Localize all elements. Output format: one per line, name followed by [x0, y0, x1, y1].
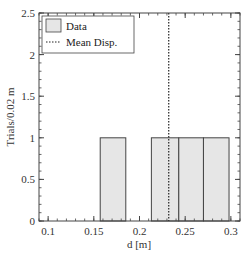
histogram-bars: [100, 138, 229, 221]
y-tick-label: 1.5: [21, 90, 35, 102]
y-axis-label: Trials/0.02 m: [4, 87, 16, 146]
histogram-bar: [100, 138, 126, 221]
histogram-bar: [179, 138, 204, 221]
x-axis-label: d [m]: [127, 238, 151, 250]
x-tick-label: 0.25: [176, 225, 196, 237]
legend-mean-label: Mean Disp.: [66, 36, 118, 48]
y-tick-label: 0: [30, 215, 36, 227]
histogram-bar: [203, 138, 229, 221]
x-tick-label: 0.1: [41, 225, 55, 237]
y-tick-label: 0.5: [21, 173, 35, 185]
y-tick-label: 1: [30, 132, 36, 144]
x-tick-label: 0.3: [224, 225, 238, 237]
legend: Data Mean Disp.: [42, 16, 134, 53]
x-tick-label: 0.15: [84, 225, 104, 237]
x-tick-label: 0.2: [133, 225, 147, 237]
y-tick-label: 2.5: [21, 7, 35, 19]
histogram-chart: 0.10.150.20.250.3 00.511.522.5 d [m] Tri…: [0, 0, 250, 260]
legend-data-label: Data: [66, 20, 87, 32]
legend-data-swatch: [46, 19, 61, 32]
y-tick-label: 2: [30, 49, 36, 61]
histogram-bar: [151, 138, 178, 221]
